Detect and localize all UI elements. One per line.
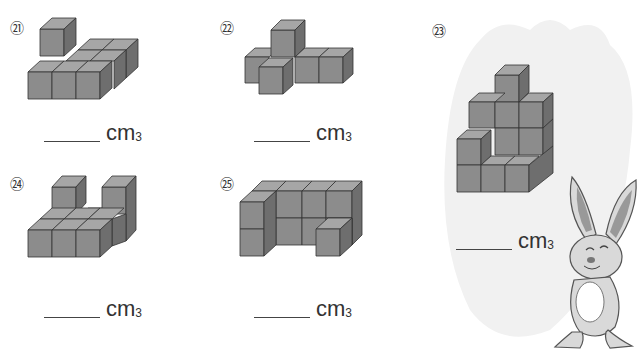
problem-number-24: ㉔ [10, 173, 24, 193]
answer-blank[interactable] [44, 141, 100, 142]
answer-blank[interactable] [456, 249, 512, 250]
answer-field-24[interactable]: cm3 [44, 296, 142, 322]
problem-number-21: ㉑ [10, 17, 24, 37]
unit-exponent: 3 [547, 238, 554, 252]
cube-figure-22 [245, 20, 365, 95]
unit-label: cm [106, 296, 135, 322]
unit-exponent: 3 [345, 306, 352, 320]
cube-figure-21 [28, 18, 148, 98]
answer-field-23[interactable]: cm3 [456, 228, 554, 254]
unit-exponent: 3 [345, 130, 352, 144]
cube-figure-23 [457, 65, 562, 195]
answer-field-25[interactable]: cm3 [254, 296, 352, 322]
answer-blank[interactable] [254, 141, 310, 142]
bunny-illustration [560, 172, 641, 351]
cube-figure-24 [28, 176, 143, 261]
answer-field-22[interactable]: cm3 [254, 120, 352, 146]
problem-number-23: ㉓ [432, 20, 446, 40]
unit-label: cm [518, 228, 547, 254]
cube-figure-25 [240, 181, 370, 261]
answer-blank[interactable] [254, 317, 310, 318]
unit-exponent: 3 [135, 306, 142, 320]
problem-number-25: ㉕ [220, 173, 234, 193]
unit-label: cm [316, 296, 345, 322]
unit-exponent: 3 [135, 130, 142, 144]
unit-label: cm [106, 120, 135, 146]
answer-blank[interactable] [44, 317, 100, 318]
answer-field-21[interactable]: cm3 [44, 120, 142, 146]
problem-number-22: ㉒ [220, 17, 234, 37]
unit-label: cm [316, 120, 345, 146]
